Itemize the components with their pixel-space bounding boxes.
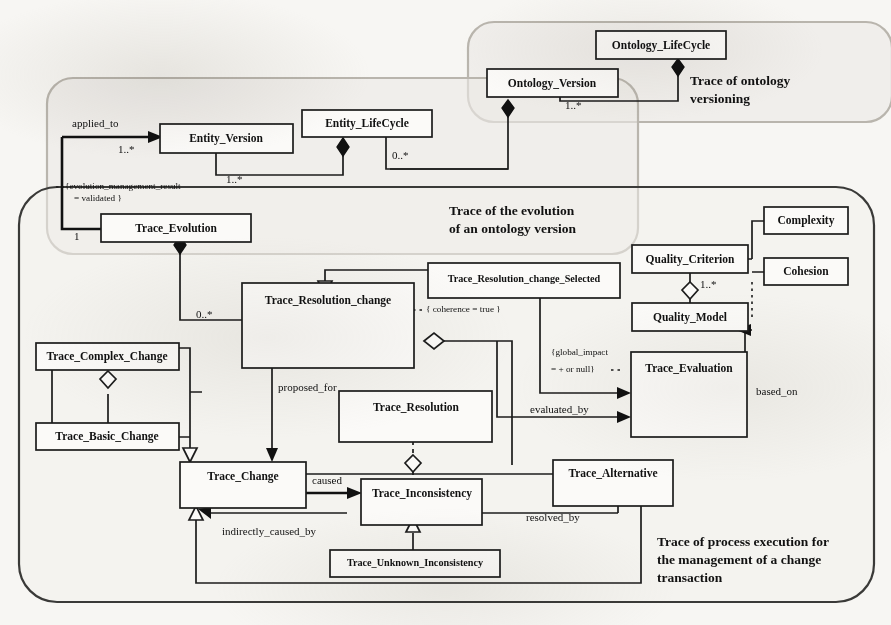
constraint-evolution-line2: = validated } [74, 193, 122, 203]
svg-text:Trace_Resolution_change_Select: Trace_Resolution_change_Selected [448, 273, 601, 284]
class-entity-lifecycle[interactable]: Entity_LifeCycle [302, 110, 432, 137]
svg-text:Trace_Evaluation: Trace_Evaluation [645, 362, 733, 374]
svg-text:Trace_Unknown_Inconsistency: Trace_Unknown_Inconsistency [347, 557, 483, 568]
constraint-evolution-line1: {evolution_management_result [65, 181, 181, 191]
svg-text:Trace_Inconsistency: Trace_Inconsistency [372, 487, 472, 500]
multiplicity-entitylifecycle: 0..* [392, 149, 409, 161]
svg-text:Trace_Evolution: Trace_Evolution [135, 222, 217, 234]
svg-text:Quality_Criterion: Quality_Criterion [646, 253, 735, 266]
multiplicity-trace-evolution-one: 1 [74, 230, 80, 242]
constraint-global-impact-line1: {global_impact [551, 347, 608, 357]
multiplicity-applied-to: 1..* [118, 143, 135, 155]
class-trace-change[interactable]: Trace_Change [180, 462, 306, 508]
group-title-versioning-line2: versioning [690, 91, 750, 106]
svg-text:Quality_Model: Quality_Model [653, 311, 727, 324]
class-trace-complex-change[interactable]: Trace_Complex_Change [36, 343, 179, 370]
svg-text:Entity_LifeCycle: Entity_LifeCycle [325, 117, 409, 130]
constraint-coherence: { coherence = true } [426, 304, 501, 314]
class-entity-version[interactable]: Entity_Version [160, 124, 293, 153]
label-resolved-by: resolved_by [526, 511, 580, 523]
class-quality-criterion[interactable]: Quality_Criterion [632, 245, 748, 273]
svg-text:Complexity: Complexity [778, 214, 835, 227]
class-trace-unknown-inconsistency[interactable]: Trace_Unknown_Inconsistency [330, 550, 500, 577]
class-ontology-lifecycle[interactable]: Ontology_LifeCycle [596, 31, 726, 59]
label-indirectly-caused-by: indirectly_caused_by [222, 525, 317, 537]
group-title-process-line2: the management of a change [657, 552, 821, 567]
svg-text:Entity_Version: Entity_Version [189, 132, 263, 145]
group-title-evolution-line1: Trace of the evolution [449, 203, 575, 218]
class-trace-evaluation[interactable]: Trace_Evaluation [631, 352, 747, 437]
multiplicity-quality: 1..* [700, 278, 717, 290]
group-title-evolution-line2: of an ontology version [449, 221, 577, 236]
group-title-process-line1: Trace of process execution for [657, 534, 829, 549]
group-title-process-line3: transaction [657, 570, 723, 585]
svg-text:Trace_Complex_Change: Trace_Complex_Change [46, 350, 167, 363]
class-quality-model[interactable]: Quality_Model [632, 303, 748, 331]
svg-text:Trace_Change: Trace_Change [207, 470, 278, 483]
class-trace-resolution-change-selected[interactable]: Trace_Resolution_change_Selected [428, 263, 620, 298]
label-applied-to: applied_to [72, 117, 119, 129]
class-trace-inconsistency[interactable]: Trace_Inconsistency [361, 479, 482, 525]
multiplicity-entityversion-self: 1..* [226, 173, 243, 185]
diagram-canvas: 1..* applied_to 1..* 1 {evolution_manage… [0, 0, 891, 625]
class-trace-evolution[interactable]: Trace_Evolution [101, 214, 251, 242]
svg-text:Cohesion: Cohesion [783, 265, 829, 277]
label-based-on: based_on [756, 385, 798, 397]
class-cohesion[interactable]: Cohesion [764, 258, 848, 285]
class-complexity[interactable]: Complexity [764, 207, 848, 234]
svg-text:Ontology_Version: Ontology_Version [508, 77, 597, 90]
svg-text:Trace_Resolution_change: Trace_Resolution_change [265, 294, 391, 307]
constraint-global-impact-line2: = + or null} [551, 364, 595, 374]
group-title-versioning-line1: Trace of ontology [690, 73, 790, 88]
svg-text:Trace_Resolution: Trace_Resolution [373, 401, 460, 413]
svg-text:Ontology_LifeCycle: Ontology_LifeCycle [612, 39, 710, 52]
multiplicity-trace-resolution-change: 0..* [196, 308, 213, 320]
class-trace-resolution[interactable]: Trace_Resolution [339, 391, 492, 442]
class-trace-basic-change[interactable]: Trace_Basic_Change [36, 423, 179, 450]
svg-text:Trace_Basic_Change: Trace_Basic_Change [55, 430, 158, 443]
class-trace-resolution-change[interactable]: Trace_Resolution_change [242, 283, 414, 368]
svg-text:Trace_Alternative: Trace_Alternative [568, 467, 657, 479]
label-proposed-for: proposed_for [278, 381, 337, 393]
label-caused: caused [312, 474, 342, 486]
label-evaluated-by: evaluated_by [530, 403, 589, 415]
class-ontology-version[interactable]: Ontology_Version [487, 69, 618, 97]
class-trace-alternative[interactable]: Trace_Alternative [553, 460, 673, 506]
multiplicity-ov-olc: 1..* [565, 99, 582, 111]
